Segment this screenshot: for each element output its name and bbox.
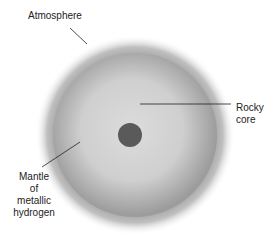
atmosphere-label: Atmosphere xyxy=(28,10,82,22)
rocky-core-label-line1: Rocky xyxy=(236,102,264,114)
atmosphere-leader-line xyxy=(70,28,87,44)
mantle-label-line3: metallic xyxy=(12,195,56,207)
rocky-core xyxy=(118,123,142,147)
mantle-label-line1: Mantle xyxy=(12,171,56,183)
rocky-core-label-line2: core xyxy=(236,114,264,126)
mantle-label: Mantle of metallic hydrogen xyxy=(12,171,56,219)
mantle-label-line4: hydrogen xyxy=(12,207,56,219)
rocky-core-label: Rocky core xyxy=(236,102,264,126)
mantle-label-line2: of xyxy=(12,183,56,195)
